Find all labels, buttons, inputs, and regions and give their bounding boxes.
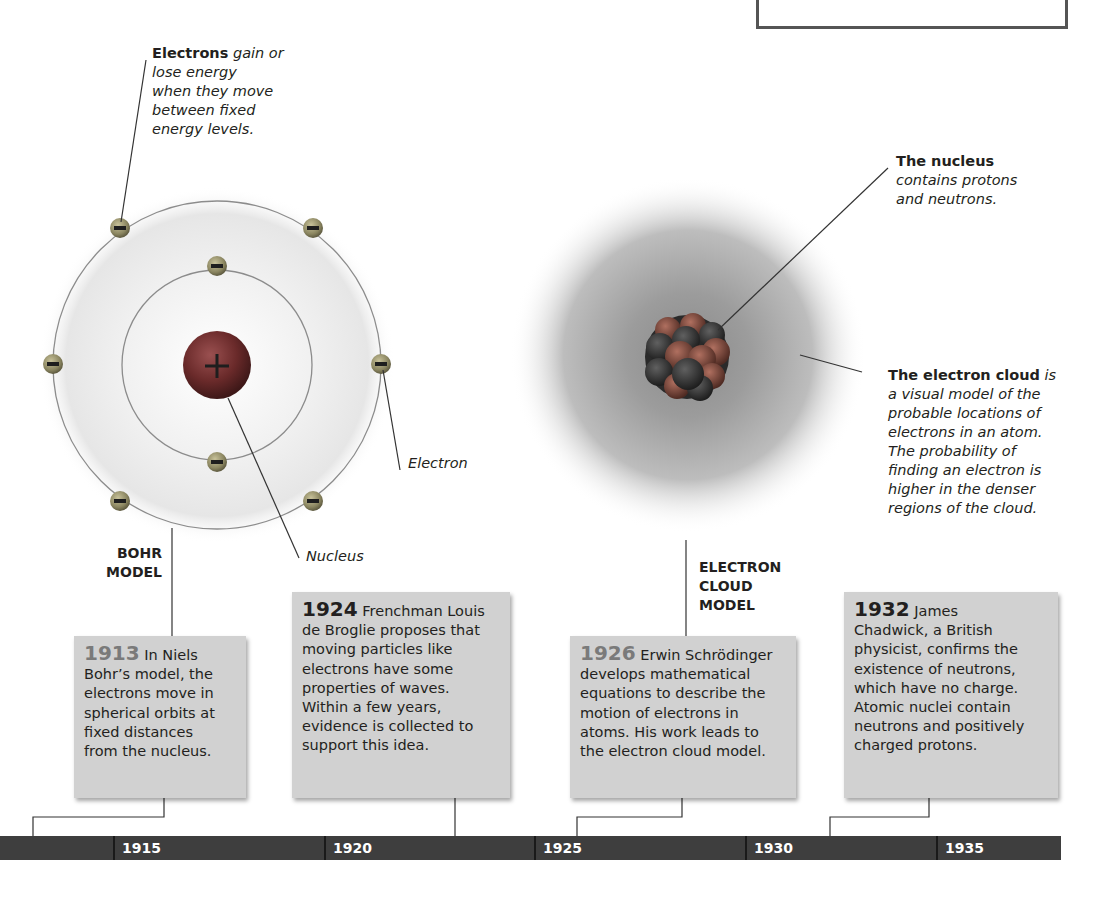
card-line: equations to describe the [580, 685, 765, 701]
cloud-callout-line: higher in the denser [888, 481, 1035, 497]
card-line: Chadwick, a British [854, 622, 993, 638]
card-year: 1913 [84, 641, 140, 665]
electron-label: Electron [408, 454, 468, 473]
tick-1930: 1930 [745, 836, 793, 860]
card-year: 1932 [854, 597, 910, 621]
nucleus-label-text: Nucleus [306, 548, 364, 564]
card-line: Erwin Schrödinger [640, 647, 772, 663]
card-line: develops mathematical [580, 666, 750, 682]
cloud-callout-line: electrons in an atom. [888, 424, 1042, 440]
bohr-model-label: BOHR MODEL [96, 544, 162, 582]
electrons-callout-bold: Electrons [152, 45, 228, 61]
tick-1935: 1935 [936, 836, 984, 860]
electrons-callout-line: gain or [233, 45, 284, 61]
card-line: electrons move in [84, 685, 214, 701]
card-line: which have no charge. [854, 680, 1018, 696]
card-line: neutrons and positively [854, 718, 1024, 734]
card-line: Bohr’s model, the [84, 666, 213, 682]
timeline-card-1926: 1926 Erwin Schrödinger develops mathemat… [570, 636, 796, 798]
card-line: Frenchman Louis [362, 603, 484, 619]
electron-cloud-atom [510, 177, 866, 533]
nucleus-callout-bold: The nucleus [896, 153, 994, 169]
card-year: 1926 [580, 641, 636, 665]
cloud-callout-line: finding an electron is [888, 462, 1041, 478]
cloud-callout-bold: The electron cloud [888, 367, 1040, 383]
label-line: MODEL [699, 597, 755, 613]
electrons-callout: Electrons gain or lose energy when they … [152, 44, 302, 139]
timeline-card-1924: 1924 Frenchman Louis de Broglie proposes… [292, 592, 510, 798]
electron-label-text: Electron [408, 455, 468, 471]
electrons-callout-line: lose energy [152, 64, 237, 80]
card-line: spherical orbits at [84, 705, 215, 721]
card-line: electrons have some [302, 661, 453, 677]
card-line: moving particles like [302, 641, 452, 657]
card-line: existence of neutrons, [854, 661, 1016, 677]
bohr-atom [39, 187, 395, 543]
card-line: motion of electrons in [580, 705, 739, 721]
nucleus-callout-line: and neutrons. [896, 191, 997, 207]
cloud-callout-line: probable locations of [888, 405, 1041, 421]
electrons-callout-line: when they move [152, 83, 273, 99]
card-line: Within a few years, [302, 699, 441, 715]
nucleus-callout: The nucleus contains protons and neutron… [896, 152, 1066, 209]
tick-1920: 1920 [324, 836, 372, 860]
card-line: properties of waves. [302, 680, 450, 696]
electrons-callout-line: energy levels. [152, 121, 254, 137]
card-line: Atomic nuclei contain [854, 699, 1011, 715]
cloud-callout-line: The probability of [888, 443, 1016, 459]
label-line: ELECTRON [699, 559, 781, 575]
card-line: the electron cloud model. [580, 743, 766, 759]
timeline-card-1913: 1913 In Niels Bohr’s model, the electron… [74, 636, 246, 798]
tick-1915: 1915 [113, 836, 161, 860]
electron-cloud-model-label: ELECTRON CLOUD MODEL [699, 558, 781, 615]
card-line: physicist, confirms the [854, 641, 1018, 657]
label-line: CLOUD [699, 578, 753, 594]
cloud-callout-first: is [1045, 367, 1057, 383]
timeline-axis: 1915 1920 1925 1930 1935 [0, 836, 1061, 860]
card-line: de Broglie proposes that [302, 622, 480, 638]
timeline-card-1932: 1932 James Chadwick, a British physicist… [844, 592, 1058, 798]
card-line: support this idea. [302, 737, 429, 753]
tick-1925: 1925 [534, 836, 582, 860]
card-line: atoms. His work leads to [580, 724, 759, 740]
electron-cloud-callout: The electron cloud is a visual model of … [888, 366, 1088, 518]
card-line: evidence is collected to [302, 718, 473, 734]
electrons-callout-line: between fixed [152, 102, 255, 118]
card-line: James [914, 603, 958, 619]
label-line: MODEL [106, 564, 162, 580]
nucleus-icon [183, 331, 251, 399]
label-line: BOHR [117, 545, 162, 561]
cloud-callout-line: regions of the cloud. [888, 500, 1037, 516]
card-line: fixed distances [84, 724, 193, 740]
cloud-callout-line: a visual model of the [888, 386, 1041, 402]
card-line: from the nucleus. [84, 743, 211, 759]
card-year: 1924 [302, 597, 358, 621]
card-line: In Niels [144, 647, 197, 663]
card-line: charged protons. [854, 737, 977, 753]
nucleus-label: Nucleus [306, 547, 364, 566]
nucleus-callout-line: contains protons [896, 172, 1017, 188]
